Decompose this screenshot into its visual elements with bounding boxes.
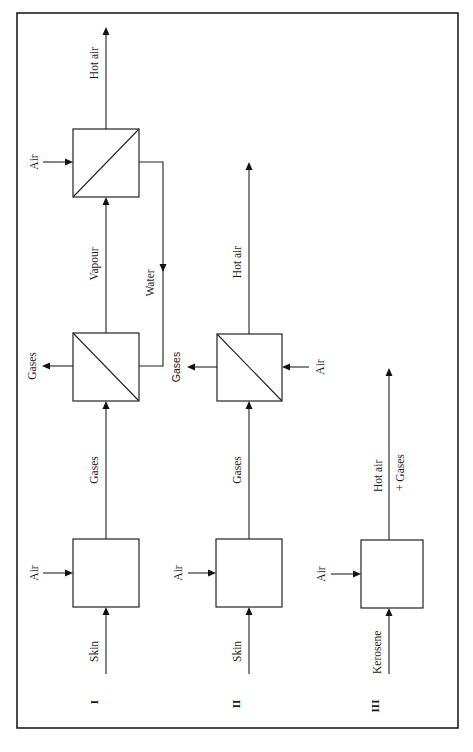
process-II-air-label-2: Air: [314, 359, 326, 375]
arrow-down-icon: [160, 264, 167, 272]
process-II-numeral: II: [230, 700, 242, 709]
process-II-skin-label: Skin: [231, 641, 243, 662]
arrow-up-icon: [103, 607, 110, 615]
arrow-right-icon: [65, 570, 73, 577]
process-I-gases-label: Gases: [88, 456, 100, 484]
process-I-hot-air-label: Hot air: [88, 47, 100, 79]
process-II: II Skin Air Gases Gases Air Hot air: [170, 162, 326, 708]
process-III-gases-label: + Gases: [394, 454, 406, 491]
process-I: I Skin Air Gases Gases Water Vapour: [26, 27, 167, 704]
arrow-up-icon: [103, 27, 110, 35]
process-II-combustion-box: [216, 539, 282, 607]
process-I-air-label-2: Air: [28, 154, 40, 170]
process-III-kerosene-label: Kerosene: [371, 631, 383, 674]
process-III: III Kerosene Air Hot air + Gases: [315, 368, 423, 712]
arrow-up-icon: [386, 368, 393, 376]
process-I-skin-label: Skin: [88, 641, 100, 662]
arrow-up-icon: [246, 162, 253, 170]
arrow-left-icon: [187, 364, 195, 371]
process-II-gases-label: Gases: [231, 456, 243, 484]
process-flow-diagram: I Skin Air Gases Gases Water Vapour: [0, 0, 473, 752]
arrow-up-icon: [103, 197, 110, 205]
arrow-right-icon: [65, 159, 73, 166]
arrow-up-icon: [103, 401, 110, 409]
arrow-up-icon: [246, 401, 253, 409]
process-II-air-label-1: Air: [172, 565, 184, 581]
process-I-numeral: I: [88, 700, 100, 704]
arrow-right-icon: [353, 571, 361, 578]
arrow-left-icon: [42, 363, 50, 370]
process-III-combustion-box: [361, 540, 423, 608]
arrow-left-icon: [282, 364, 290, 371]
process-III-hot-air-label: Hot air: [372, 460, 384, 492]
process-I-water-label: Water: [144, 269, 156, 296]
process-I-combustion-box: [73, 539, 139, 607]
process-III-air-label: Air: [315, 566, 327, 582]
process-II-exhaust-gases-label: Gases: [170, 352, 182, 382]
process-III-numeral: III: [369, 700, 381, 713]
process-I-air-label-1: Air: [28, 565, 40, 581]
arrow-up-icon: [386, 608, 393, 616]
process-I-vapour-label: Vapour: [88, 247, 101, 280]
arrow-up-icon: [246, 607, 253, 615]
process-I-exhaust-gases-label: Gases: [26, 352, 38, 380]
process-II-hot-air-label: Hot air: [231, 246, 243, 278]
arrow-right-icon: [208, 570, 216, 577]
process-I-water-return-line: [139, 162, 163, 366]
